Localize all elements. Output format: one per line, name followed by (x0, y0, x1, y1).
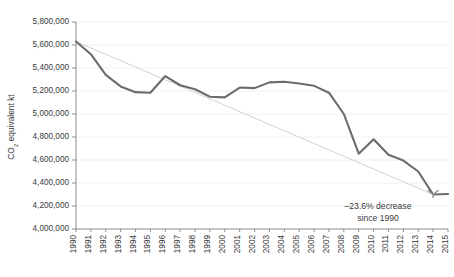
y-tick-label: 5,600,000 (33, 40, 70, 49)
x-tick-label: 2012 (396, 235, 405, 254)
chart-container: 5,800,0005,600,0005,400,0005,200,0005,00… (0, 0, 454, 277)
trend-line (76, 42, 433, 195)
y-tick-label: 4,800,000 (33, 132, 70, 141)
x-tick-label: 1993 (114, 235, 123, 254)
x-tick-label: 2003 (262, 235, 271, 254)
data-line (76, 42, 448, 195)
gridlines (76, 22, 448, 206)
y-axis: 5,800,0005,600,0005,400,0005,200,0005,00… (33, 17, 76, 233)
x-tick-label: 1996 (158, 235, 167, 254)
y-tick-label: 4,000,000 (33, 224, 70, 233)
y-tick-label: 4,400,000 (33, 178, 70, 187)
x-tick-label: 2000 (218, 235, 227, 254)
x-tick-label: 2001 (233, 235, 242, 254)
x-tick-label: 2008 (337, 235, 346, 254)
x-tick-label: 2009 (352, 235, 361, 254)
x-tick-label: 2004 (277, 235, 286, 254)
x-tick-label: 1995 (143, 235, 152, 254)
x-tick-label: 2015 (441, 235, 450, 254)
y-tick-label: 5,000,000 (33, 109, 70, 118)
y-tick-label: 5,400,000 (33, 63, 70, 72)
y-tick-label: 5,800,000 (33, 17, 70, 26)
x-tick-label: 2007 (322, 235, 331, 254)
y-tick-label: 5,200,000 (33, 86, 70, 95)
x-tick-label: 1997 (173, 235, 182, 254)
x-tick-label: 1991 (84, 235, 93, 254)
data-line-series (76, 42, 448, 195)
decrease-callout-line1: –23.6% decrease (345, 201, 412, 211)
x-tick-label: 2006 (307, 235, 316, 254)
x-tick-label: 2002 (248, 235, 257, 254)
decrease-callout-line2: since 1990 (357, 213, 399, 223)
x-tick-label: 2013 (411, 235, 420, 254)
x-tick-label: 1998 (188, 235, 197, 254)
x-tick-label: 2011 (381, 235, 390, 253)
x-tick-label: 2005 (292, 235, 301, 254)
x-tick-label: 1999 (203, 235, 212, 254)
x-tick-label: 2010 (367, 235, 376, 254)
y-tick-label: 4,200,000 (33, 201, 70, 210)
x-tick-label: 1992 (99, 235, 108, 254)
x-axis: 1990199119921993199419951996199719981999… (69, 229, 450, 253)
x-tick-label: 2014 (426, 235, 435, 254)
y-axis-title: CO2 equivalent kt (6, 94, 19, 160)
x-tick-label: 1994 (129, 235, 138, 254)
x-tick-label: 1990 (69, 235, 78, 254)
y-tick-label: 4,600,000 (33, 155, 70, 164)
trend-line-series (76, 42, 433, 195)
co2-emissions-line-chart: 5,800,0005,600,0005,400,0005,200,0005,00… (0, 0, 454, 277)
